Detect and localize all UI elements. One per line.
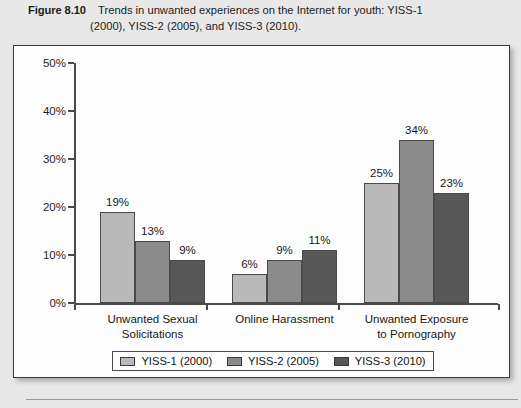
bar-value-label: 9%: [164, 244, 211, 256]
bar: [434, 193, 469, 303]
x-axis-tick: [74, 304, 76, 310]
legend-swatch: [227, 357, 242, 366]
bar: [399, 140, 434, 303]
y-axis-tick: [68, 110, 74, 112]
bar-value-label: 25%: [358, 167, 405, 179]
x-axis-tick: [338, 304, 340, 310]
bar-value-label: 13%: [129, 225, 176, 237]
chart-legend: YISS-1 (2000)YISS-2 (2005)YISS-3 (2010): [112, 351, 434, 371]
x-axis-category-label: Unwanted Exposureto Pornography: [342, 312, 491, 341]
page-divider-rule: [26, 399, 518, 400]
bar: [302, 250, 337, 303]
bar: [364, 183, 399, 303]
x-axis-category-label: Online Harassment: [210, 312, 359, 327]
legend-swatch: [120, 357, 135, 366]
bar-value-label: 6%: [226, 258, 273, 270]
x-axis-tick: [498, 304, 500, 310]
figure-caption-line-1: Trends in unwanted experiences on the In…: [98, 4, 423, 16]
legend-item: YISS-1 (2000): [120, 355, 212, 367]
y-axis-tick: [68, 206, 74, 208]
legend-swatch: [334, 357, 349, 366]
legend-label: YISS-1 (2000): [141, 355, 212, 367]
bar: [232, 274, 267, 303]
bar-value-label: 34%: [393, 124, 440, 136]
y-axis-tick: [68, 254, 74, 256]
bar-value-label: 23%: [428, 177, 475, 189]
x-axis-tick: [206, 304, 208, 310]
category-label-line: Unwanted Exposure: [342, 312, 491, 327]
figure-number: Figure 8.10: [28, 4, 86, 16]
bar-value-label: 11%: [296, 234, 343, 246]
legend-item: YISS-2 (2005): [227, 355, 319, 367]
figure-caption-line-2: (2000), YISS-2 (2005), and YISS-3 (2010)…: [90, 19, 498, 35]
legend-label: YISS-3 (2010): [355, 355, 426, 367]
figure-caption: Figure 8.10 Trends in unwanted experienc…: [28, 3, 498, 34]
category-label-line: Unwanted Sexual: [78, 312, 227, 327]
chart-frame: 0%10%20%30%40%50% 19%13%9%Unwanted Sexua…: [13, 45, 510, 378]
y-axis-labels: 0%10%20%30%40%50%: [14, 46, 66, 379]
x-axis-category-label: Unwanted SexualSolicitations: [78, 312, 227, 341]
y-axis-tick: [68, 158, 74, 160]
legend-label: YISS-2 (2005): [248, 355, 319, 367]
y-axis-tick: [68, 62, 74, 64]
x-axis-line: [74, 303, 498, 305]
bar: [267, 260, 302, 303]
y-axis-tick-label: 20%: [18, 201, 66, 213]
y-axis-tick-label: 30%: [18, 153, 66, 165]
y-axis-line: [74, 63, 76, 304]
y-axis-tick-label: 50%: [18, 57, 66, 69]
category-label-line: Solicitations: [78, 327, 227, 342]
bar: [170, 260, 205, 303]
category-label-line: Online Harassment: [210, 312, 359, 327]
y-axis-tick-label: 10%: [18, 249, 66, 261]
bar-value-label: 19%: [94, 196, 141, 208]
legend-item: YISS-3 (2010): [334, 355, 426, 367]
bar-chart-plot-area: 0%10%20%30%40%50% 19%13%9%Unwanted Sexua…: [14, 46, 511, 379]
y-axis-tick-label: 0%: [18, 297, 66, 309]
category-label-line: to Pornography: [342, 327, 491, 342]
y-axis-tick-label: 40%: [18, 105, 66, 117]
